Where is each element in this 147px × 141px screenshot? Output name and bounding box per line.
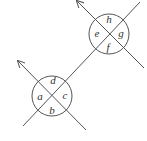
angle-label-d: d — [50, 74, 56, 86]
lower-parallel-line — [18, 61, 86, 130]
angle-label-f: f — [106, 41, 111, 53]
angle-label-c: c — [63, 89, 68, 101]
angle-label-e: e — [95, 27, 100, 39]
angle-label-g: g — [118, 27, 124, 39]
transversal-line — [23, 2, 140, 126]
angle-diagram: h e g f d a c b — [0, 0, 147, 141]
angle-label-b: b — [49, 104, 55, 116]
angle-label-a: a — [37, 90, 43, 102]
angle-label-h: h — [106, 13, 112, 25]
